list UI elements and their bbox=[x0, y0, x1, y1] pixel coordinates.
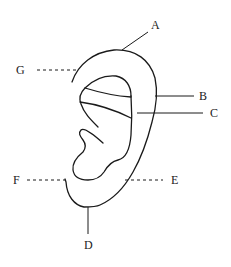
antihelix-rim bbox=[73, 96, 132, 180]
outer-helix bbox=[65, 50, 156, 207]
label-e: E bbox=[171, 173, 178, 187]
triangular-fossa bbox=[80, 76, 131, 127]
label-c: C bbox=[210, 106, 218, 120]
label-a: A bbox=[151, 18, 160, 32]
label-d: D bbox=[84, 238, 93, 252]
label-g: G bbox=[16, 63, 25, 77]
leader-a bbox=[122, 32, 148, 50]
ear-diagram: A B C D E F G bbox=[0, 0, 231, 267]
label-b: B bbox=[199, 89, 207, 103]
crus-upper bbox=[85, 88, 131, 97]
label-f: F bbox=[13, 173, 20, 187]
ear-outline bbox=[65, 50, 156, 207]
